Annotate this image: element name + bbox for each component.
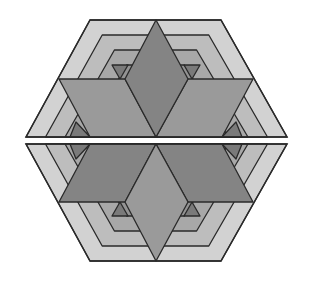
hexagon-star-diagram [0,0,310,287]
diagram-canvas [0,0,310,287]
top-half [26,20,287,137]
bottom-half [26,144,287,261]
